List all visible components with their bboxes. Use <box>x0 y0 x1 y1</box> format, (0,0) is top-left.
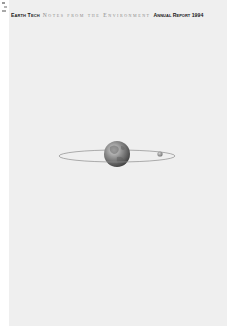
globe-orbit-illustration <box>0 0 227 326</box>
globe-icon <box>104 141 130 167</box>
moon-icon <box>157 151 162 156</box>
